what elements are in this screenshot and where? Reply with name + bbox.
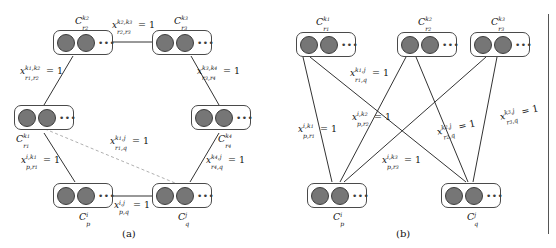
panel-caption-a: (a) — [122, 228, 136, 239]
node-label-b-k3r3: Ck3r3 — [491, 17, 507, 27]
node-box-a-jq[interactable]: ••• — [152, 183, 212, 208]
panel-caption-b: (b) — [396, 228, 410, 239]
node-label-b-k2r2: Ck2r2 — [418, 17, 434, 27]
member-dot — [465, 187, 483, 205]
node-label-a-ip: Cip — [79, 212, 92, 222]
member-dot — [38, 109, 56, 127]
node-label-b-k1r1: Ck1r1 — [316, 17, 332, 27]
node-label-a-k1r1: Ck1r1 — [16, 134, 32, 144]
member-dot — [57, 187, 75, 205]
ellipsis-icon: ••• — [515, 42, 532, 48]
member-dot — [176, 187, 194, 205]
member-dot — [494, 36, 512, 54]
member-dot — [156, 187, 174, 205]
ellipsis-icon: ••• — [197, 193, 214, 199]
member-dot — [311, 187, 329, 205]
edge-label-b-k1r1-jq: xk1,jr1,q= 1 — [350, 68, 389, 78]
node-label-b-ip: Cip — [333, 212, 346, 222]
edge-label-a-k4r4-jq: xk4,jr4,q= 1 — [206, 155, 245, 165]
node-box-b-jq[interactable]: ••• — [441, 183, 501, 208]
edge-label-b-ip-k3r3: xi,k3p,r3= 1 — [382, 155, 421, 165]
ellipsis-icon: ••• — [197, 40, 214, 46]
ellipsis-icon: ••• — [486, 193, 503, 199]
member-dot — [215, 109, 233, 127]
member-dot — [176, 34, 194, 52]
edge-b-k3r3-jq — [473, 57, 497, 182]
ellipsis-icon: ••• — [59, 115, 76, 121]
member-dot — [421, 36, 439, 54]
member-dot — [57, 34, 75, 52]
edge-b-k1r1-ip — [303, 57, 332, 182]
ellipsis-icon: ••• — [352, 193, 369, 199]
member-dot — [18, 109, 36, 127]
ellipsis-icon: ••• — [236, 115, 253, 121]
edge-label-a-k1r1-jq: xk1,jr1,q= 1 — [110, 136, 149, 146]
node-box-a-k2r2[interactable]: ••• — [53, 30, 113, 55]
node-box-b-k2r2[interactable]: ••• — [397, 32, 457, 57]
ellipsis-icon: ••• — [98, 193, 115, 199]
node-box-a-k4r4[interactable]: ••• — [191, 105, 251, 130]
member-dot — [300, 36, 318, 54]
edge-label-b-ip-k2r2: xi,k2p,r2= 1 — [352, 112, 391, 122]
ellipsis-icon: ••• — [341, 42, 358, 48]
edge-label-a-ip-jq: xi,jp,q= 1 — [114, 200, 150, 210]
member-dot — [331, 187, 349, 205]
member-dot — [401, 36, 419, 54]
node-label-a-jq: Cjq — [178, 212, 191, 222]
member-dot — [77, 187, 95, 205]
node-box-a-k3r3[interactable]: ••• — [152, 30, 212, 55]
node-box-b-ip[interactable]: ••• — [307, 183, 367, 208]
member-dot — [156, 34, 174, 52]
node-label-a-k4r4: Ck4r4 — [218, 134, 234, 144]
member-dot — [195, 109, 213, 127]
node-label-a-k2r2: Ck2r2 — [75, 16, 91, 26]
figure-container: ••• ••• ••• ••• ••• ••• Ck2r2 Ck3r3 Ck1r… — [0, 0, 556, 248]
member-dot — [474, 36, 492, 54]
edge-label-a-k3r3-k4r4: xk3,k4r3,r4= 1 — [197, 66, 240, 76]
node-box-b-k3r3[interactable]: ••• — [470, 32, 530, 57]
node-box-b-k1r1[interactable]: ••• — [296, 32, 356, 57]
member-dot — [77, 34, 95, 52]
node-box-a-ip[interactable]: ••• — [53, 183, 113, 208]
edge-label-b-ip-k1r1: xi,k1p,r1= 1 — [298, 124, 337, 134]
member-dot — [320, 36, 338, 54]
ellipsis-icon: ••• — [98, 40, 115, 46]
member-dot — [445, 187, 463, 205]
node-label-b-jq: Cjq — [467, 212, 480, 222]
node-box-a-k1r1[interactable]: ••• — [14, 105, 74, 130]
edge-k1r1-k2r2 — [44, 56, 73, 105]
page-divider-rule — [548, 14, 549, 234]
edge-label-a-ip-k1r1: xi,k1p,r1= 1 — [21, 155, 60, 165]
edge-label-a-k1r1-k2r2: xk1,k2r1,r2= 1 — [20, 66, 63, 76]
edge-label-a-k2r2-k3r3: xk2,k3r2,r3= 1 — [112, 20, 155, 30]
node-label-a-k3r3: Ck3r3 — [174, 16, 190, 26]
ellipsis-icon: ••• — [442, 42, 459, 48]
